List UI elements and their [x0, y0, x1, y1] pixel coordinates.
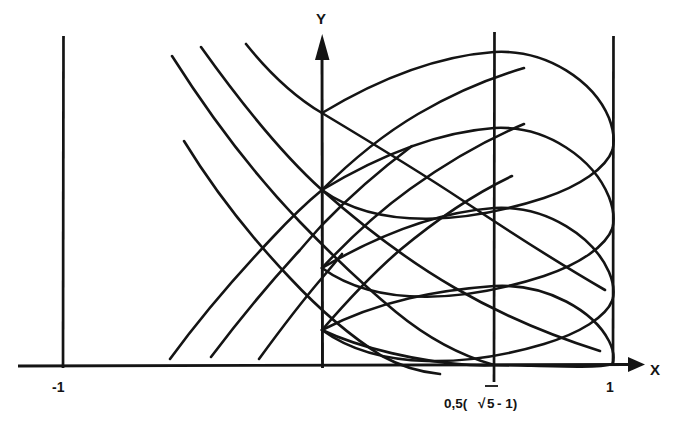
x-axis-label: X — [650, 361, 660, 378]
y-axis-line — [322, 44, 323, 368]
phase-diagram-figure: X Y -1 1 0,5( √ 5 - 1) — [0, 0, 678, 440]
tick-label-golden-ratio: 0,5( √ 5 - 1) — [444, 386, 517, 411]
y-axis-arrow-icon — [315, 34, 330, 60]
x-axis-arrow-icon — [628, 357, 645, 372]
golden-label-prefix: 0,5( — [444, 396, 468, 411]
axes-group — [18, 34, 645, 372]
tick-label-minus-one: -1 — [52, 379, 65, 395]
trajectory-curves — [170, 44, 614, 374]
descending-branch-4 — [184, 141, 440, 374]
loop-1-upper-arc — [322, 52, 614, 150]
ascending-branch-1 — [170, 190, 322, 359]
tick-label-one: 1 — [606, 379, 614, 395]
plot-canvas: X Y -1 1 0,5( √ 5 - 1) — [0, 0, 678, 440]
golden-label-suffix: - 1) — [497, 396, 517, 411]
golden-label-radicand: 5 — [487, 396, 495, 411]
radical-icon: √ — [478, 396, 486, 411]
ascending-branch-3 — [259, 254, 342, 359]
line-x-1 — [613, 36, 614, 366]
x-axis-line — [18, 365, 632, 367]
line-x-minus-1 — [63, 36, 64, 368]
y-axis-label: Y — [316, 10, 326, 27]
loop-3-lower-arc — [322, 300, 613, 361]
ascending-branch-2 — [211, 146, 412, 357]
loop-2-upper-arc — [322, 128, 614, 228]
